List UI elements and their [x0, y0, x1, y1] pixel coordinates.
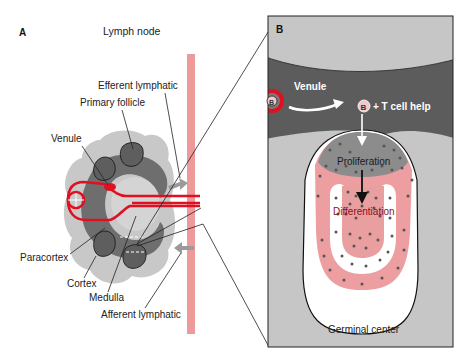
label-efferent-lymphatic: Efferent lymphatic: [98, 80, 178, 91]
label-differentiation: Differentiation: [333, 206, 395, 217]
b-cell-label: B: [269, 99, 274, 106]
zoom-connector-top: [137, 16, 278, 244]
panel-b: B Venule B B + T cell help: [260, 16, 460, 347]
label-paracortex: Paracortex: [20, 252, 68, 263]
label-venule-b: Venule: [294, 81, 327, 92]
panel-a-title: Lymph node: [103, 25, 161, 37]
lymphatic-vessel: [187, 54, 195, 334]
label-primary-follicle: Primary follicle: [80, 97, 145, 108]
primary-follicle: [123, 245, 146, 269]
label-afferent-lymphatic: Afferent lymphatic: [101, 309, 181, 320]
panel-a-letter: A: [19, 27, 26, 38]
label-venule: Venule: [51, 133, 82, 144]
label-t-cell-help: + T cell help: [373, 101, 431, 112]
zoom-connector-bottom: [203, 224, 269, 347]
label-proliferation: Proliferation: [337, 156, 390, 167]
panel-b-letter: B: [276, 24, 283, 35]
label-cortex: Cortex: [67, 278, 96, 289]
venule-bulge: [104, 183, 116, 191]
lymph-node-diagram: A Lymph node Efferent lymphatic P: [0, 0, 472, 364]
label-germinal-center: Germinal center: [328, 324, 400, 335]
lymph-node: [64, 130, 200, 283]
primary-follicle: [94, 231, 116, 256]
label-medulla: Medulla: [89, 292, 124, 303]
b-cell-activated-label: B: [361, 103, 367, 112]
